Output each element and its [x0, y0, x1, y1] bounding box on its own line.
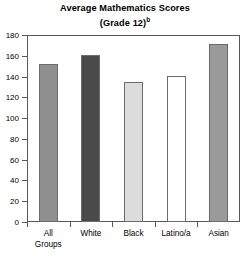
- x-axis-category-label: Black: [112, 229, 155, 240]
- x-axis-label-line: White: [80, 229, 101, 238]
- bar-latino-a: [167, 76, 186, 222]
- y-axis-tick-label: 180: [6, 31, 19, 40]
- x-axis-tick-mark: [155, 222, 156, 227]
- y-axis-tick-label: 80: [10, 134, 19, 143]
- x-axis-label-line: All: [44, 229, 53, 238]
- x-axis-category-label: AllGroups: [27, 229, 70, 250]
- x-axis-tick-mark: [197, 222, 198, 227]
- x-axis-label-line: Latino/a: [162, 229, 191, 238]
- y-axis-tick-label: 140: [6, 72, 19, 81]
- x-axis-label-line: Groups: [27, 240, 70, 251]
- x-axis-label-line: Asian: [208, 229, 228, 238]
- y-axis-tick-label: 160: [6, 51, 19, 60]
- y-axis-tick-label: 120: [6, 93, 19, 102]
- bar-white: [81, 55, 100, 222]
- y-axis-tick-label: 100: [6, 114, 19, 123]
- x-axis-label-line: Black: [123, 229, 143, 238]
- chart-subtitle-text: (Grade 12): [100, 18, 146, 28]
- bar-black: [124, 82, 143, 222]
- chart-figure: Average Mathematics Scores (Grade 12)b 0…: [0, 0, 250, 256]
- y-axis-tick-label: 60: [10, 155, 19, 164]
- chart-title-block: Average Mathematics Scores (Grade 12)b: [0, 3, 250, 29]
- x-axis-tick-mark: [70, 222, 71, 227]
- bars-layer: [27, 35, 240, 222]
- y-axis-tick-label: 40: [10, 176, 19, 185]
- x-axis-tick-mark: [112, 222, 113, 227]
- bar-asian: [209, 44, 228, 222]
- x-axis-category-label: White: [70, 229, 113, 240]
- y-axis-tick-label: 0: [15, 218, 19, 227]
- bar-all-groups: [39, 64, 58, 222]
- chart-subtitle-superscript: b: [146, 16, 150, 23]
- x-axis-category-label: Asian: [197, 229, 240, 240]
- x-axis-tick-mark: [27, 222, 28, 227]
- x-axis-category-label: Latino/a: [155, 229, 198, 240]
- chart-title: Average Mathematics Scores: [0, 3, 250, 14]
- y-axis-tick-label: 20: [10, 197, 19, 206]
- chart-subtitle: (Grade 12)b: [0, 14, 250, 29]
